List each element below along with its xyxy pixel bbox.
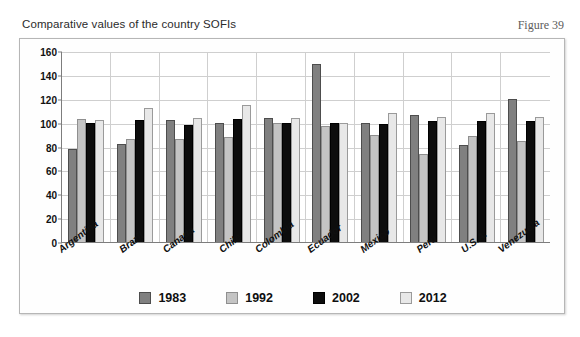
- bar-group: [306, 52, 355, 242]
- bar: [486, 113, 495, 242]
- bar: [264, 118, 273, 242]
- chart-frame: 020406080100120140160 ArgentinaBrazilCan…: [19, 38, 565, 314]
- bar: [224, 137, 233, 242]
- bar: [233, 119, 242, 242]
- bar: [419, 154, 428, 242]
- plot-area: 020406080100120140160: [61, 52, 550, 243]
- bar: [68, 149, 77, 242]
- y-axis-tick-label: 140: [40, 70, 57, 81]
- y-axis-tick-label: 160: [40, 47, 57, 58]
- figure-caption-row: Comparative values of the country SOFIs …: [0, 18, 580, 38]
- bar: [410, 115, 419, 242]
- bar: [135, 120, 144, 242]
- legend-label: 2002: [332, 291, 360, 305]
- bar: [508, 99, 517, 242]
- bar-group: [62, 52, 111, 242]
- legend-swatch: [313, 292, 325, 304]
- bar-groups-layer: [62, 52, 550, 242]
- legend-label: 1983: [158, 291, 186, 305]
- legend-label: 1992: [245, 291, 273, 305]
- bar: [428, 121, 437, 242]
- legend-swatch: [139, 292, 151, 304]
- legend-item: 1983: [139, 291, 186, 305]
- bar: [468, 136, 477, 242]
- bar: [477, 121, 486, 242]
- chart-legend: 1983199220022012: [20, 291, 566, 305]
- bar-group: [160, 52, 209, 242]
- figure-container: Comparative values of the country SOFIs …: [0, 0, 580, 337]
- bar: [166, 120, 175, 242]
- y-axis-tick-label: 80: [46, 142, 57, 153]
- bar: [379, 124, 388, 242]
- figure-caption-title: Comparative values of the country SOFIs: [22, 18, 236, 30]
- bar: [437, 117, 446, 242]
- legend-item: 2012: [400, 291, 447, 305]
- bar: [117, 144, 126, 242]
- bar-group: [452, 52, 501, 242]
- bar: [321, 126, 330, 242]
- bar: [361, 123, 370, 242]
- bar: [175, 139, 184, 242]
- legend-swatch: [400, 292, 412, 304]
- y-axis-tick-label: 60: [46, 166, 57, 177]
- bar: [144, 108, 153, 242]
- bar-group: [355, 52, 404, 242]
- y-axis-tick-label: 20: [46, 214, 57, 225]
- figure-number-label: Figure 39: [518, 18, 564, 33]
- y-axis-tick-label: 120: [40, 94, 57, 105]
- bar: [312, 64, 321, 242]
- bar: [242, 105, 251, 242]
- legend-label: 2012: [419, 291, 447, 305]
- bar: [215, 123, 224, 242]
- bar: [126, 139, 135, 242]
- legend-item: 2002: [313, 291, 360, 305]
- bar: [459, 145, 468, 242]
- legend-swatch: [226, 292, 238, 304]
- bar-group: [208, 52, 257, 242]
- legend-item: 1992: [226, 291, 273, 305]
- y-axis-tick-label: 40: [46, 190, 57, 201]
- bar-group: [257, 52, 306, 242]
- bar: [193, 118, 202, 242]
- y-axis-tick-label: 100: [40, 118, 57, 129]
- bar: [388, 113, 397, 242]
- bar-group: [111, 52, 160, 242]
- bar-group: [404, 52, 453, 242]
- bar: [370, 135, 379, 242]
- bar-group: [501, 52, 550, 242]
- bar: [339, 123, 348, 242]
